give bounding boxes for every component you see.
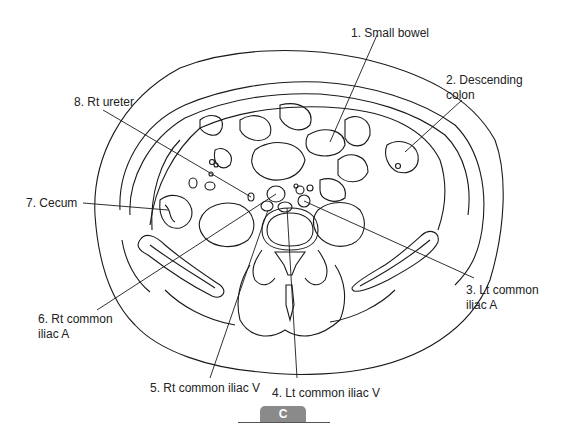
lt-iliac-wing (352, 231, 438, 291)
anatomy-drawing (0, 0, 562, 431)
muscle-wall (120, 82, 484, 285)
label-rt-common-iliac-a-line2: iliac A (38, 327, 113, 342)
label-rt-ureter: 8. Rt ureter (74, 95, 134, 110)
label-lt-common-iliac-v: 4. Lt common iliac V (272, 386, 380, 401)
rt-psoas (199, 203, 254, 246)
label-cecum: 7. Cecum (26, 196, 77, 211)
vertebral-body (262, 208, 318, 250)
skin-outline (95, 51, 503, 375)
label-rt-common-iliac-a: 6. Rt common iliac A (38, 312, 113, 342)
label-descending-colon-line1: 2. Descending (446, 73, 523, 88)
label-lt-common-iliac-a-line1: 3. Lt common (466, 283, 539, 298)
cecum (160, 195, 192, 228)
label-descending-colon: 2. Descending colon (446, 73, 523, 103)
label-rt-common-iliac-a-line1: 6. Rt common (38, 312, 113, 327)
panel-label-badge: C (260, 406, 306, 422)
label-lt-common-iliac-a-line2: iliac A (466, 298, 539, 313)
peritoneal-cavity (150, 107, 445, 230)
label-small-bowel: 1. Small bowel (351, 26, 429, 41)
label-lt-common-iliac-a: 3. Lt common iliac A (466, 283, 539, 313)
panel-underline (238, 422, 330, 423)
label-descending-colon-line2: colon (446, 88, 523, 103)
small-bowel-loops (200, 116, 222, 136)
descending-colon (386, 142, 419, 173)
label-rt-common-iliac-v: 5. Rt common iliac V (150, 381, 260, 396)
lt-common-iliac-v (278, 202, 292, 212)
